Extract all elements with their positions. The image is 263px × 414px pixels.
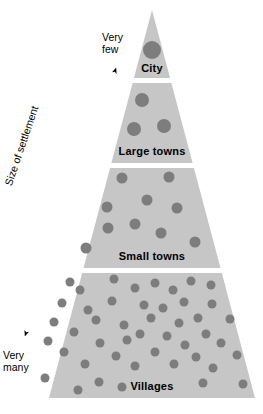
settlement-dot	[131, 284, 140, 293]
settlement-hierarchy-diagram: City Large towns Small towns Villages Ve…	[0, 0, 263, 414]
settlement-dot	[110, 275, 119, 284]
settlement-dot	[70, 328, 79, 337]
settlement-dot	[233, 351, 242, 360]
tier-label-city: City	[141, 63, 163, 74]
axis-label-very-many-line1: Very	[3, 349, 24, 361]
settlement-dot	[131, 362, 140, 371]
settlement-dot	[81, 243, 92, 254]
settlement-dot	[135, 93, 149, 107]
pyramid-graphic	[0, 0, 263, 414]
settlement-dot	[96, 339, 105, 348]
settlement-dot	[163, 332, 172, 341]
settlement-dot	[151, 279, 160, 288]
settlement-dot	[81, 360, 90, 369]
settlement-dot	[140, 301, 149, 310]
settlement-dot	[117, 173, 128, 184]
settlement-dot	[76, 286, 85, 295]
settlement-dot	[187, 277, 196, 286]
settlement-dot	[172, 203, 183, 214]
settlement-dot	[60, 348, 69, 357]
settlement-dot	[142, 195, 153, 206]
settlement-dot	[130, 219, 141, 230]
settlement-dot	[157, 119, 171, 133]
settlement-dot	[108, 297, 117, 306]
tier-label-villages: Villages	[131, 381, 174, 392]
settlement-dot	[164, 172, 175, 183]
settlement-dot	[181, 341, 190, 350]
settlement-dot	[127, 122, 141, 136]
settlement-dot	[92, 316, 101, 325]
settlement-dot	[95, 378, 104, 387]
settlement-dot	[44, 337, 53, 346]
settlement-dot	[239, 380, 248, 389]
settlement-dot	[209, 364, 218, 373]
settlement-dot	[159, 304, 168, 313]
settlement-dot	[74, 386, 83, 395]
settlement-dot	[180, 298, 189, 307]
settlement-dot	[151, 348, 160, 357]
axis-label-very-many: Very many	[3, 350, 29, 374]
settlement-dot	[120, 321, 129, 330]
settlement-dot	[136, 330, 145, 339]
axis-label-very-few-line2: few	[102, 43, 118, 55]
settlement-dot	[207, 281, 216, 290]
settlement-dot	[156, 228, 167, 239]
settlement-dot	[123, 336, 132, 345]
settlement-dot	[194, 314, 203, 323]
settlement-dot	[143, 41, 161, 59]
settlement-dot	[84, 306, 93, 315]
settlement-dot	[102, 202, 113, 213]
settlement-dot	[103, 223, 114, 234]
settlement-dot	[202, 330, 211, 339]
axis-label-very-few: Very few	[102, 32, 123, 56]
tier-label-small-towns: Small towns	[119, 251, 185, 262]
settlement-dot	[192, 353, 201, 362]
settlement-dot	[226, 315, 235, 324]
settlement-dot	[41, 374, 50, 383]
settlement-dot	[112, 352, 121, 361]
axis-label-very-many-line2: many	[3, 361, 29, 373]
settlement-dot	[147, 314, 156, 323]
settlement-dot	[169, 286, 178, 295]
settlement-dot	[170, 360, 179, 369]
settlement-dot	[58, 299, 67, 308]
tier-label-large-towns: Large towns	[119, 146, 186, 157]
settlement-dot	[208, 300, 217, 309]
settlement-dot	[118, 383, 127, 392]
settlement-dot	[199, 379, 208, 388]
settlement-dot	[175, 319, 184, 328]
settlement-dot	[50, 318, 59, 327]
axis-label-very-few-line1: Very	[102, 31, 123, 43]
settlement-dot	[190, 237, 201, 248]
settlement-dot	[217, 339, 226, 348]
settlement-dot	[66, 278, 75, 287]
